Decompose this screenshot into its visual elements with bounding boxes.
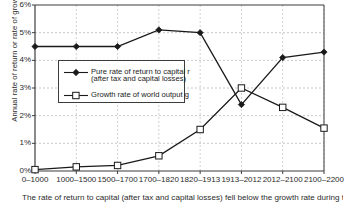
y-tick-label: 1% (5, 138, 31, 147)
legend-marker-filled-diamond-icon (63, 68, 89, 77)
y-tick-label: 6% (5, 0, 31, 9)
y-tick-label: 5% (5, 28, 31, 37)
chart-legend: Pure rate of return to capital r (after … (58, 60, 185, 103)
y-tick-label: 3% (5, 83, 31, 92)
y-tick-label: 2% (5, 111, 31, 120)
y-tick-label: 0% (5, 166, 31, 175)
legend-marker-open-square-icon (63, 91, 89, 100)
x-tick-label: 2100–2200 (294, 175, 349, 184)
y-tick-label: 4% (5, 55, 31, 64)
legend-label-growth-rate: Growth rate of world output g (91, 90, 189, 99)
figure-caption: The rate of return to capital (after tax… (22, 192, 343, 203)
legend-label-return-rate-sub: (after tax and capital losses) (91, 74, 186, 83)
